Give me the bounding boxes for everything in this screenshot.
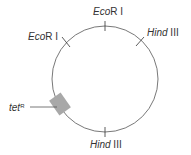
- label-rest: III: [168, 27, 179, 38]
- label-rest: R I: [45, 31, 58, 42]
- ecori-left-tick: [62, 37, 70, 47]
- label-italic: Eco: [28, 31, 45, 42]
- label-italic: Hind: [147, 27, 168, 38]
- gene-superscript: R: [20, 103, 24, 109]
- label-rest: R I: [110, 6, 123, 17]
- gene-name: tet: [9, 102, 20, 113]
- tetr-label: tetR: [9, 103, 24, 113]
- ecori-left-label: EcoR I: [28, 32, 58, 42]
- label-rest: III: [111, 139, 122, 150]
- hindiii-right-label: Hind III: [147, 28, 179, 38]
- tetr-gene-box: [49, 93, 71, 116]
- plasmid-circle: [52, 26, 158, 132]
- plasmid-diagram: [0, 0, 191, 155]
- label-italic: Eco: [93, 6, 110, 17]
- hindiii-bottom-label: Hind III: [90, 140, 122, 150]
- ecori-top-label: EcoR I: [93, 7, 123, 17]
- label-italic: Hind: [90, 139, 111, 150]
